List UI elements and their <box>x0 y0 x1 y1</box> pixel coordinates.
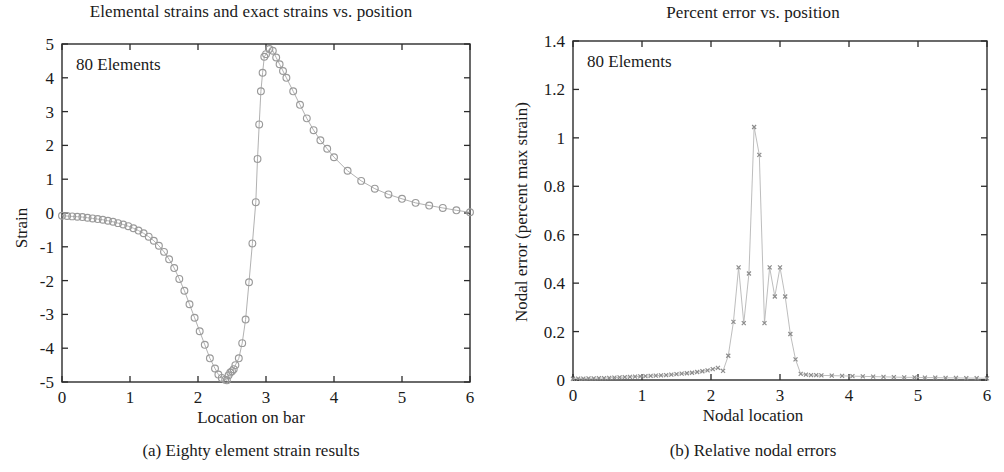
svg-text:-4: -4 <box>40 339 55 358</box>
svg-text:3: 3 <box>46 103 55 122</box>
panel-a-x-axis-label: Location on bar <box>0 408 502 428</box>
panel-a: Elemental strains and exact strains vs. … <box>0 0 502 472</box>
svg-text:1: 1 <box>638 386 647 405</box>
svg-text:4: 4 <box>845 386 854 405</box>
panel-a-subcaption: (a) Eighty element strain results <box>0 441 502 461</box>
svg-text:0.8: 0.8 <box>544 177 565 196</box>
svg-text:0: 0 <box>569 386 578 405</box>
svg-text:0: 0 <box>46 204 55 223</box>
svg-text:3: 3 <box>776 386 785 405</box>
figure-container: Elemental strains and exact strains vs. … <box>0 0 1004 472</box>
panel-b-y-axis-label: Nodal error (percent max strain) <box>512 102 532 322</box>
svg-text:0.4: 0.4 <box>544 274 566 293</box>
svg-text:6: 6 <box>466 388 475 407</box>
svg-text:0: 0 <box>58 388 67 407</box>
svg-text:80 Elements: 80 Elements <box>76 55 161 74</box>
svg-text:1.2: 1.2 <box>544 80 565 99</box>
svg-text:1.4: 1.4 <box>544 32 566 51</box>
svg-text:3: 3 <box>262 388 271 407</box>
panel-b-x-axis-label: Nodal location <box>502 406 1004 426</box>
svg-text:-3: -3 <box>40 305 54 324</box>
svg-text:2: 2 <box>46 136 55 155</box>
svg-text:0: 0 <box>557 371 566 390</box>
svg-text:5: 5 <box>398 388 407 407</box>
panel-b: Percent error vs. position 012345600.20.… <box>502 0 1004 472</box>
panel-a-plot: 0123456-5-4-3-2-101234580 Elements <box>0 0 502 472</box>
svg-text:1: 1 <box>46 170 55 189</box>
svg-text:0.2: 0.2 <box>544 323 565 342</box>
svg-text:0.6: 0.6 <box>544 226 565 245</box>
svg-text:1: 1 <box>557 129 566 148</box>
svg-text:2: 2 <box>707 386 716 405</box>
svg-text:80 Elements: 80 Elements <box>587 52 672 71</box>
svg-text:4: 4 <box>46 69 55 88</box>
svg-text:1: 1 <box>126 388 135 407</box>
panel-b-plot: 012345600.20.40.60.811.21.480 Elements <box>502 0 1004 472</box>
svg-text:5: 5 <box>46 35 55 54</box>
svg-text:-2: -2 <box>40 272 54 291</box>
svg-text:4: 4 <box>330 388 339 407</box>
svg-text:6: 6 <box>983 386 992 405</box>
svg-text:2: 2 <box>194 388 203 407</box>
svg-text:-1: -1 <box>40 238 54 257</box>
svg-text:5: 5 <box>914 386 923 405</box>
panel-a-y-axis-label: Strain <box>12 208 32 249</box>
svg-text:-5: -5 <box>40 373 54 392</box>
panel-b-subcaption: (b) Relative nodal errors <box>502 441 1004 461</box>
